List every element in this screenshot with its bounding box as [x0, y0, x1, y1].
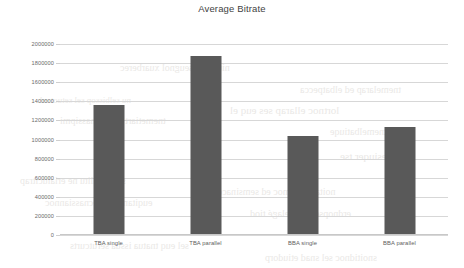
y-axis-tick-label: 1200000 [32, 117, 54, 123]
chart-title: Average Bitrate [0, 3, 464, 14]
x-axis-tick-label: TBA single [94, 240, 123, 246]
y-axis-tick-label: 400000 [35, 194, 54, 200]
x-axis-tick-label: BBA single [288, 240, 317, 246]
bar-group: TBA single [60, 44, 157, 235]
gridline [60, 235, 448, 236]
y-axis-tick-label: 1800000 [32, 60, 54, 66]
bar[interactable] [384, 127, 415, 235]
bar-group: BBA single [254, 44, 351, 235]
bar[interactable] [287, 136, 318, 235]
bar[interactable] [190, 56, 221, 235]
bar[interactable] [93, 105, 124, 235]
y-axis-tick-label: 1600000 [32, 79, 54, 85]
bar-group: TBA parallel [157, 44, 254, 235]
x-axis-tick-label: TBA parallel [189, 240, 221, 246]
y-axis-tick-label: 2000000 [32, 41, 54, 47]
y-axis-tick-label: 1000000 [32, 137, 54, 143]
y-axis-tick-label: 0 [51, 232, 54, 238]
y-axis-tick-label: 800000 [35, 156, 54, 162]
y-axis-tick-mark [56, 235, 60, 236]
plot-area: 2000000180000016000001400000120000010000… [60, 44, 448, 235]
y-axis-tick-label: 200000 [35, 213, 54, 219]
bar-chart: Average Bitrate 200000018000001600000140… [0, 0, 464, 268]
y-axis-tick-label: 600000 [35, 175, 54, 181]
bar-group: BBA parallel [351, 44, 448, 235]
y-axis-tick-label: 1400000 [32, 98, 54, 104]
bar-series: TBA singleTBA parallelBBA singleBBA para… [60, 44, 448, 235]
x-axis-baseline [60, 234, 448, 235]
x-axis-tick-label: BBA parallel [383, 240, 416, 246]
